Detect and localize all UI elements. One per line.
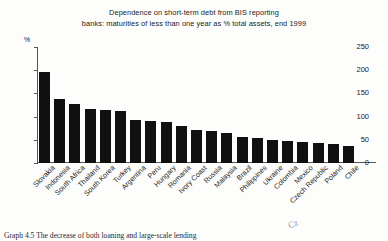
bar: [39, 72, 50, 163]
x-axis-label: Chile: [343, 164, 360, 181]
y-tick-200: [34, 70, 38, 71]
bar: [252, 138, 263, 163]
y-tick-label-250: 250: [339, 43, 369, 51]
bar: [69, 104, 80, 163]
bar: [85, 109, 96, 163]
bar: [115, 111, 126, 163]
y-axis-unit-label: %: [24, 36, 30, 43]
bar: [54, 99, 65, 163]
bar: [206, 131, 217, 163]
bar: [191, 130, 202, 163]
y-tick-250: [34, 47, 38, 48]
chart-title-line-1: Dependence on short-term debt from BIS r…: [0, 7, 388, 18]
figure-caption: Graph 4.5 The decrease of both loaning a…: [4, 231, 384, 240]
bar: [297, 142, 308, 163]
bar: [100, 110, 111, 163]
bar: [267, 140, 278, 163]
chart-page: Dependence on short-term debt from BIS r…: [0, 0, 388, 241]
bar: [145, 121, 156, 163]
bar: [130, 120, 141, 163]
bar: [328, 144, 339, 163]
chart-title: Dependence on short-term debt from BIS r…: [0, 7, 388, 29]
bar: [221, 133, 232, 163]
bar: [313, 143, 324, 163]
y-tick-label-200: 200: [339, 66, 369, 74]
bar: [161, 122, 172, 163]
x-axis-labels: SlovakiaIndonesiaSouth AfricaThailandSou…: [37, 164, 382, 220]
bar: [237, 137, 248, 163]
y-tick-label-100: 100: [339, 113, 369, 121]
y-tick-50: [34, 140, 38, 141]
y-tick-150: [34, 93, 38, 94]
chart-title-line-2: banks: maturities of less than one year …: [0, 18, 388, 29]
y-axis-line: [37, 47, 38, 163]
y-tick-100: [34, 117, 38, 118]
bar: [343, 146, 354, 163]
plot-area: 050100150200250: [37, 47, 376, 163]
bar: [282, 141, 293, 163]
y-tick-label-150: 150: [339, 89, 369, 97]
bar: [176, 126, 187, 163]
y-tick-label-50: 50: [339, 136, 369, 144]
